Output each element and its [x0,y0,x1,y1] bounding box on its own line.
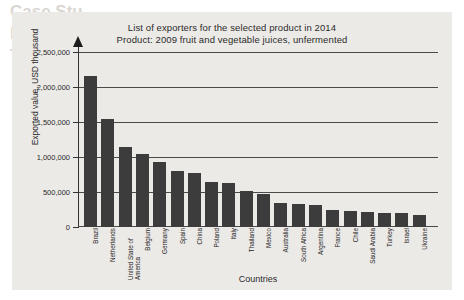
y-axis-tick-label: 1,000,000 [14,153,70,162]
bar [222,183,235,227]
bar [344,211,357,227]
y-axis-tick-labels: 2,500,0002,000,0001,500,0001,000,000500,… [12,12,70,290]
y-axis-tick-mark [73,87,79,88]
x-axis-tick-label: France [335,228,342,248]
x-axis-tick-label: China [197,228,204,244]
bar [84,76,97,227]
bar [119,147,132,227]
gridline [78,192,438,193]
x-axis-tick-label: Australia [283,228,290,253]
y-axis-tick-mark [73,192,79,193]
x-axis-tick-label: Chile [353,228,360,242]
chart-title: List of exporters for the selected produ… [12,22,452,33]
y-axis-tick-label: 2,500,000 [14,48,70,57]
x-axis-tick-label: Netherlands [110,228,117,262]
x-axis-tick-label: Poland [214,228,221,248]
chart-panel: List of exporters for the selected produ… [12,12,452,290]
gridline [78,87,438,88]
bar [413,215,426,227]
plot-area [78,52,438,227]
bar [101,119,114,228]
gridline [78,52,438,53]
x-axis-tick-label: Germany [162,228,169,254]
x-axis-tick-label: Ukraine [422,228,429,250]
x-axis-tick-label: Mexico [266,228,273,248]
bar [274,203,287,227]
y-axis-tick-mark [73,157,79,158]
bar [257,194,270,227]
y-axis-arrow-icon [73,36,83,47]
bar [395,213,408,227]
y-axis-tick-label: 0 [14,223,70,232]
x-axis-tick-label: Italy [231,228,238,240]
bar [326,210,339,228]
gridline [78,122,438,123]
y-axis-tick-mark [73,52,79,53]
bar [378,213,391,227]
x-axis-tick-label: Argentina [318,228,325,255]
x-axis-tick-label: Belgium [145,228,152,251]
x-axis-tick-label: Brazil [93,228,100,244]
bar [188,173,201,227]
bar [309,205,322,227]
x-axis-tick-label: Turkey [387,228,394,247]
x-axis-tick-label: Saudi Arabia [370,228,377,264]
y-axis-tick-label: 2,000,000 [14,83,70,92]
y-axis-tick-mark [73,227,79,228]
gridline [78,157,438,158]
bar [361,212,374,227]
bar-chart: List of exporters for the selected produ… [12,12,452,290]
bar [136,154,149,228]
x-axis-tick-label: South Africa [301,228,308,262]
screenshot-root: Case Stu he problem of Anti-dumping Trop… [0,0,464,300]
x-axis-tick-label: United State of America [128,228,142,280]
bar [171,171,184,227]
x-axis-title: Countries [78,274,438,284]
y-axis-tick-mark [73,122,79,123]
y-axis-tick-label: 1,500,000 [14,118,70,127]
y-axis-tick-label: 500,000 [14,188,70,197]
bar [240,191,253,227]
bar [292,204,305,227]
bar [153,162,166,227]
bar [205,182,218,227]
x-axis-tick-label: Thailand [249,228,256,252]
x-axis-tick-label: Spain [180,228,187,244]
x-axis-tick-label: Israel [404,228,411,243]
